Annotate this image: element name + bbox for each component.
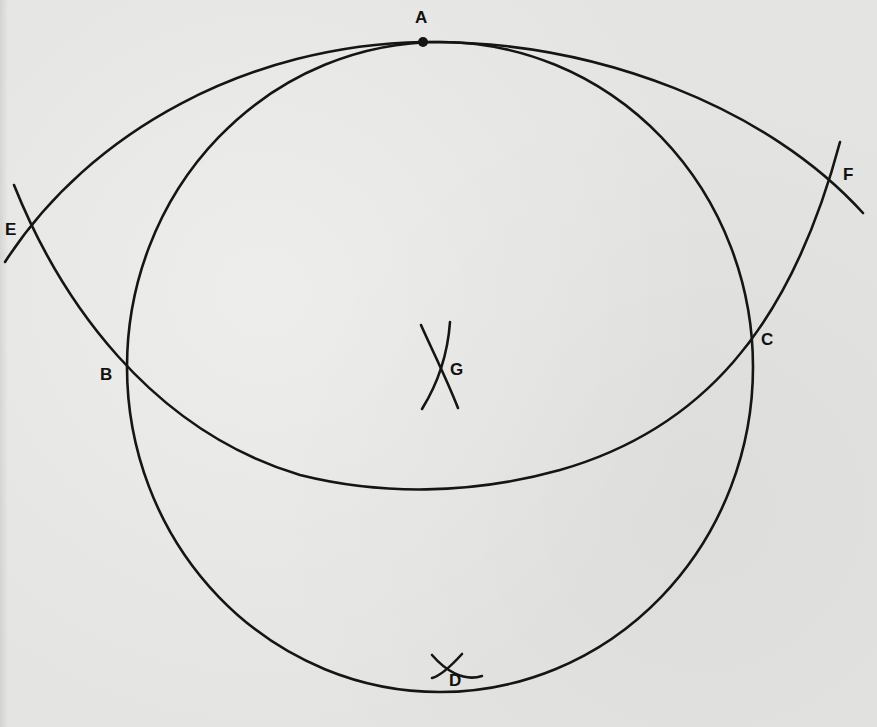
label-a: A: [415, 9, 427, 26]
construction-drawing: [0, 0, 877, 727]
point-a-dot: [418, 37, 428, 47]
upper-arc: [5, 42, 863, 262]
label-c: C: [761, 331, 773, 348]
lower-arc: [14, 142, 840, 489]
label-d: D: [449, 672, 461, 689]
label-g: G: [450, 361, 463, 378]
diagram-canvas: A B C D E F G: [0, 0, 877, 727]
label-f: F: [843, 166, 853, 183]
label-e: E: [5, 221, 16, 238]
label-b: B: [100, 366, 112, 383]
